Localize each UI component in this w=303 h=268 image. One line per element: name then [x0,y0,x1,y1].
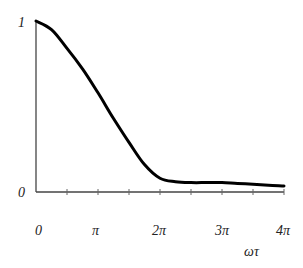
x-tick-label-3pi: 3π [214,223,230,238]
chart: 1 0 0 π 2π 3π 4π ωτ [0,0,303,268]
axes [36,21,284,195]
x-tick-label-pi: π [92,223,100,238]
x-tick-label-4pi: 4π [276,223,291,238]
y-tick-label-1: 1 [18,15,25,30]
x-tick-label-0: 0 [35,223,42,238]
data-curve [36,21,284,186]
x-tick-label-2pi: 2π [152,223,167,238]
y-tick-label-0: 0 [18,185,25,200]
x-axis-label: ωτ [244,244,260,259]
